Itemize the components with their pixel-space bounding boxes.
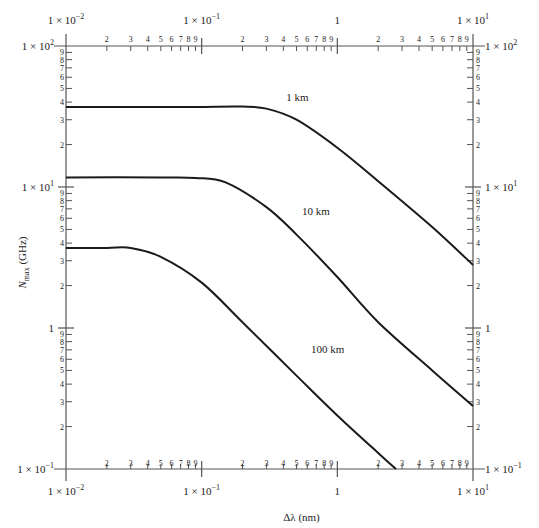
x-minor-tick-label-top: 7 xyxy=(179,35,183,44)
x-minor-tick-label-bottom: 4 xyxy=(281,459,285,468)
x-minor-tick-label-top: 3 xyxy=(400,35,404,44)
y-minor-tick-label-left: 9 xyxy=(60,48,64,57)
x-minor-tick-label-top: 2 xyxy=(105,35,109,44)
y-minor-tick-label-right: 4 xyxy=(476,98,480,107)
x-minor-tick-label-bottom: 7 xyxy=(179,459,183,468)
y-minor-tick-label-right: 5 xyxy=(476,366,480,375)
x-minor-tick-label-bottom: 9 xyxy=(193,459,197,468)
y-minor-tick-label-left: 2 xyxy=(60,141,64,150)
y-minor-tick-label-right: 6 xyxy=(476,73,480,82)
x-minor-tick-label-bottom: 2 xyxy=(105,459,109,468)
x-minor-tick-label-top: 2 xyxy=(376,35,380,44)
x-major-label-bottom: 1 xyxy=(335,485,341,497)
y-minor-tick-label-right: 2 xyxy=(476,141,480,150)
y-minor-tick-label-right: 5 xyxy=(476,225,480,234)
y-minor-tick-label-left: 9 xyxy=(60,330,64,339)
series-label-1-km: 1 km xyxy=(286,91,309,103)
x-major-label-top: 1 × 10−1 xyxy=(183,12,220,26)
x-minor-tick-label-top: 7 xyxy=(314,35,318,44)
y-minor-tick-label-left: 3 xyxy=(60,257,64,266)
y-major-label-right: 1 × 101 xyxy=(485,179,517,193)
y-minor-tick-label-left: 4 xyxy=(60,380,64,389)
y-minor-tick-label-right: 3 xyxy=(476,398,480,407)
x-minor-tick-label-top: 8 xyxy=(458,35,462,44)
y-major-label-right: 1 × 10−1 xyxy=(485,461,522,475)
x-major-label-top: 1 × 101 xyxy=(457,12,489,26)
x-minor-tick-label-bottom: 5 xyxy=(430,459,434,468)
x-minor-tick-label-top: 4 xyxy=(417,35,421,44)
x-minor-tick-label-bottom: 6 xyxy=(441,459,445,468)
y-minor-tick-label-right: 9 xyxy=(476,48,480,57)
x-minor-tick-label-bottom: 3 xyxy=(400,459,404,468)
series-label-100-km: 100 km xyxy=(311,343,345,355)
y-minor-tick-label-left: 2 xyxy=(60,282,64,291)
x-minor-tick-label-top: 3 xyxy=(264,35,268,44)
x-minor-tick-label-bottom: 7 xyxy=(450,459,454,468)
x-major-label-bottom: 1 × 101 xyxy=(457,483,489,497)
x-minor-tick-label-bottom: 6 xyxy=(170,459,174,468)
x-minor-tick-label-bottom: 5 xyxy=(159,459,163,468)
y-minor-tick-label-left: 4 xyxy=(60,98,64,107)
x-axis-title: Δλ (nm) xyxy=(283,511,320,524)
y-minor-tick-label-left: 5 xyxy=(60,225,64,234)
y-minor-tick-label-right: 9 xyxy=(476,330,480,339)
y-minor-tick-label-left: 2 xyxy=(60,423,64,432)
curve-100-km xyxy=(66,247,396,469)
y-minor-tick-label-right: 3 xyxy=(476,116,480,125)
x-minor-tick-label-bottom: 3 xyxy=(264,459,268,468)
y-minor-tick-label-right: 9 xyxy=(476,189,480,198)
x-major-label-bottom: 1 × 10−1 xyxy=(183,483,220,497)
y-minor-tick-label-right: 4 xyxy=(476,239,480,248)
x-minor-tick-label-bottom: 5 xyxy=(294,459,298,468)
x-minor-tick-label-top: 4 xyxy=(281,35,285,44)
curve-10-km xyxy=(66,177,473,406)
y-minor-tick-label-right: 2 xyxy=(476,423,480,432)
x-minor-tick-label-top: 4 xyxy=(146,35,150,44)
y-minor-tick-label-right: 5 xyxy=(476,84,480,93)
y-minor-tick-label-right: 6 xyxy=(476,355,480,364)
y-minor-tick-label-right: 7 xyxy=(476,205,480,214)
y-minor-tick-label-right: 7 xyxy=(476,64,480,73)
y-major-label-right: 1 xyxy=(485,322,491,334)
x-major-label-top: 1 xyxy=(335,14,341,26)
y-axis-title: Nmax (GHz) xyxy=(16,236,31,289)
x-minor-tick-label-top: 6 xyxy=(305,35,309,44)
x-minor-tick-label-top: 6 xyxy=(441,35,445,44)
x-minor-tick-label-top: 9 xyxy=(193,35,197,44)
y-minor-tick-label-left: 6 xyxy=(60,73,64,82)
curve-1-km xyxy=(66,107,473,265)
y-minor-tick-label-left: 7 xyxy=(60,64,64,73)
y-minor-tick-label-right: 3 xyxy=(476,257,480,266)
log-log-chart: 2233445566778899223344556677889922334455… xyxy=(0,0,539,528)
x-minor-tick-label-bottom: 8 xyxy=(322,459,326,468)
x-minor-tick-label-top: 5 xyxy=(159,35,163,44)
x-minor-tick-label-bottom: 8 xyxy=(187,459,191,468)
x-minor-tick-label-top: 6 xyxy=(170,35,174,44)
x-minor-tick-label-bottom: 2 xyxy=(241,459,245,468)
y-minor-tick-label-left: 6 xyxy=(60,355,64,364)
x-minor-tick-label-top: 3 xyxy=(129,35,133,44)
y-minor-tick-label-right: 4 xyxy=(476,380,480,389)
x-minor-tick-label-bottom: 4 xyxy=(417,459,421,468)
y-major-label-left: 1 × 102 xyxy=(22,38,54,52)
y-minor-tick-label-left: 6 xyxy=(60,214,64,223)
y-major-label-right: 1 × 102 xyxy=(485,38,517,52)
y-minor-tick-label-right: 7 xyxy=(476,346,480,355)
y-minor-tick-label-left: 4 xyxy=(60,239,64,248)
x-minor-tick-label-top: 8 xyxy=(187,35,191,44)
x-minor-tick-label-bottom: 6 xyxy=(305,459,309,468)
x-minor-tick-label-bottom: 3 xyxy=(129,459,133,468)
y-major-label-left: 1 xyxy=(49,322,55,334)
y-major-label-left: 1 × 10−1 xyxy=(17,461,54,475)
x-minor-tick-label-top: 2 xyxy=(241,35,245,44)
x-minor-tick-label-top: 9 xyxy=(465,35,469,44)
y-minor-tick-label-left: 5 xyxy=(60,84,64,93)
y-minor-tick-label-left: 5 xyxy=(60,366,64,375)
x-minor-tick-label-bottom: 7 xyxy=(314,459,318,468)
x-minor-tick-label-top: 7 xyxy=(450,35,454,44)
x-minor-tick-label-top: 5 xyxy=(430,35,434,44)
x-minor-tick-label-top: 9 xyxy=(329,35,333,44)
x-minor-tick-label-bottom: 9 xyxy=(465,459,469,468)
x-minor-tick-label-bottom: 8 xyxy=(458,459,462,468)
x-minor-tick-label-top: 5 xyxy=(294,35,298,44)
